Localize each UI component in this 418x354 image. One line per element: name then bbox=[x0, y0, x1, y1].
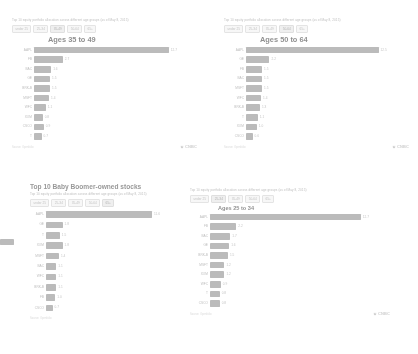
tab-25-34[interactable]: 25-34 bbox=[33, 25, 48, 33]
tab-under-25[interactable]: under 25 bbox=[190, 195, 209, 203]
bar-ticker-label: MSFT bbox=[12, 97, 34, 100]
bar-value-label: 2.7 bbox=[63, 58, 69, 61]
tab-65-plus[interactable]: 65+ bbox=[84, 25, 96, 33]
bar-row: MSFT1.4 bbox=[30, 251, 180, 261]
bar[interactable] bbox=[46, 274, 56, 281]
bar[interactable] bbox=[34, 56, 63, 63]
bar[interactable] bbox=[246, 114, 258, 121]
tab-35-49[interactable]: 35-49 bbox=[50, 25, 65, 33]
tab-25-34[interactable]: 25-34 bbox=[51, 199, 66, 207]
bar[interactable] bbox=[246, 47, 378, 54]
source-label: Source: Openfolio bbox=[12, 146, 34, 149]
bar-ticker-label: AAPL bbox=[224, 49, 246, 52]
bar[interactable] bbox=[34, 95, 49, 102]
cnbc-logo: CNBC bbox=[392, 145, 409, 149]
tab-25-34[interactable]: 25-34 bbox=[245, 25, 260, 33]
bar-ticker-label: MSFT bbox=[224, 87, 246, 90]
age-group-tabs[interactable]: under 25 25-34 35-49 50-64 65+ bbox=[30, 199, 180, 207]
bar-chart: AAPL12.7FB2.7BAC1.6GE1.5BRK-B1.5MSFT1.4W… bbox=[12, 45, 197, 141]
tab-65-plus[interactable]: 65+ bbox=[262, 195, 274, 203]
bar[interactable] bbox=[46, 294, 55, 301]
bar[interactable] bbox=[210, 262, 224, 269]
bar-row: CSCO0.8 bbox=[190, 299, 390, 309]
bar-row: T0.8 bbox=[190, 289, 390, 299]
bar[interactable] bbox=[46, 253, 59, 260]
bar[interactable] bbox=[246, 66, 262, 73]
bar[interactable] bbox=[46, 242, 62, 249]
tab-50-64[interactable]: 50-64 bbox=[245, 195, 260, 203]
bar-track: 1.6 bbox=[34, 66, 197, 73]
bar-track: 1.1 bbox=[46, 263, 180, 270]
bar[interactable] bbox=[34, 124, 44, 131]
age-group-tabs[interactable]: under 25 25-34 35-49 50-64 65+ bbox=[190, 195, 390, 203]
bar-value-label: 1.5 bbox=[262, 68, 268, 71]
bar-track: 1.8 bbox=[46, 242, 180, 249]
bar[interactable] bbox=[246, 95, 261, 102]
bar-track: 1.5 bbox=[210, 252, 390, 259]
age-group-tabs[interactable]: under 25 25-34 35-49 50-64 65+ bbox=[12, 25, 197, 33]
bar[interactable] bbox=[34, 114, 42, 121]
cnbc-logo: CNBC bbox=[373, 312, 390, 316]
bar-value-label: 1.1 bbox=[56, 275, 62, 278]
bar[interactable] bbox=[246, 124, 257, 131]
chart-panel-baby-boomer: Top 10 Baby Boomer-owned stocks Top 10 e… bbox=[30, 183, 180, 320]
source-label: Source: Openfolio bbox=[190, 313, 212, 316]
tab-65-plus[interactable]: 65+ bbox=[102, 199, 114, 207]
bar-row: AAPL11.6 bbox=[30, 209, 180, 219]
tab-35-49[interactable]: 35-49 bbox=[262, 25, 277, 33]
bar[interactable] bbox=[34, 104, 46, 111]
tab-under-25[interactable]: under 25 bbox=[12, 25, 31, 33]
bar-value-label: 1.8 bbox=[63, 223, 69, 226]
bar[interactable] bbox=[246, 76, 262, 83]
bar[interactable] bbox=[210, 300, 219, 307]
bar-ticker-label: WFC bbox=[12, 106, 34, 109]
bar-track: 0.9 bbox=[34, 124, 197, 131]
cnbc-logo-text: CNBC bbox=[185, 145, 197, 149]
bar-value-label: 0.9 bbox=[221, 283, 227, 286]
bar[interactable] bbox=[246, 56, 269, 63]
age-group-tabs[interactable]: under 25 25-34 35-49 50-64 65+ bbox=[224, 25, 409, 33]
bar[interactable] bbox=[46, 263, 56, 270]
tab-35-49[interactable]: 35-49 bbox=[68, 199, 83, 207]
bar[interactable] bbox=[210, 243, 229, 250]
bar-chart: AAPL11.6GE1.8T1.5XOM1.8MSFT1.4BAC1.1WFC1… bbox=[30, 209, 180, 313]
tab-under-25[interactable]: under 25 bbox=[224, 25, 243, 33]
tab-50-64[interactable]: 50-64 bbox=[279, 25, 294, 33]
bar-ticker-label: T bbox=[30, 234, 46, 237]
bar-ticker-label: GE bbox=[12, 77, 34, 80]
chart-footer: Source: Openfolio CNBC bbox=[224, 145, 409, 149]
tab-25-34[interactable]: 25-34 bbox=[211, 195, 226, 203]
bar[interactable] bbox=[34, 85, 50, 92]
tab-65-plus[interactable]: 65+ bbox=[296, 25, 308, 33]
bar[interactable] bbox=[34, 66, 51, 73]
bar[interactable] bbox=[34, 133, 41, 140]
chart-panel-ages-35-49: Top 10 equity portfolio allocation acros… bbox=[12, 18, 197, 149]
bar-track: 1.2 bbox=[210, 271, 390, 278]
bar[interactable] bbox=[46, 222, 62, 229]
bar[interactable] bbox=[210, 271, 224, 278]
tab-50-64[interactable]: 50-64 bbox=[85, 199, 100, 207]
bar[interactable] bbox=[210, 252, 228, 259]
cnbc-peacock-icon bbox=[392, 145, 396, 149]
bar[interactable] bbox=[246, 85, 262, 92]
bar[interactable] bbox=[210, 291, 219, 298]
bar-ticker-label: BRK-B bbox=[30, 286, 46, 289]
tab-50-64[interactable]: 50-64 bbox=[67, 25, 82, 33]
bar[interactable] bbox=[34, 47, 169, 54]
bar[interactable] bbox=[46, 211, 152, 218]
bar[interactable] bbox=[34, 76, 50, 83]
bar-row: FB2.7 bbox=[12, 55, 197, 65]
tab-35-49[interactable]: 35-49 bbox=[228, 195, 243, 203]
bar[interactable] bbox=[210, 223, 236, 230]
bar[interactable] bbox=[246, 104, 260, 111]
bar-row: AAPL12.5 bbox=[224, 45, 409, 55]
bar[interactable] bbox=[210, 214, 361, 221]
bar-row: GE1.6 bbox=[190, 241, 390, 251]
tab-under-25[interactable]: under 25 bbox=[30, 199, 49, 207]
bar[interactable] bbox=[46, 284, 56, 291]
bar[interactable] bbox=[46, 232, 60, 239]
bar[interactable] bbox=[210, 233, 230, 240]
source-label: Source: Openfolio bbox=[224, 146, 246, 149]
bar[interactable] bbox=[210, 281, 221, 288]
bar-row: XOM1.8 bbox=[30, 241, 180, 251]
